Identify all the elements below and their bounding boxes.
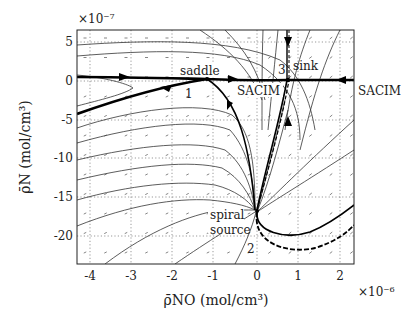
y-tick: -10: [54, 151, 73, 165]
y-tick: -20: [54, 229, 73, 243]
trajectory-arrows: [119, 37, 346, 126]
annotations: saddle 1 SACIM 3 sink SACIM spiral sourc…: [178, 59, 401, 256]
annotation-spiral: spiral: [210, 208, 245, 222]
arrow-right-icon: [228, 75, 238, 83]
arrow-right-icon: [119, 73, 130, 81]
phase-portrait-chart: saddle 1 SACIM 3 sink SACIM spiral sourc…: [0, 0, 416, 323]
spiral-source-point: [255, 209, 259, 213]
x-tick: 2: [336, 269, 344, 283]
x-tick: -3: [125, 269, 137, 283]
x-scale-label: ×10⁻⁶: [358, 285, 395, 299]
annotation-1: 1: [185, 87, 193, 101]
annotation-sacim-inner: SACIM: [237, 84, 280, 98]
arrow-left-icon: [336, 76, 346, 84]
y-tick: -15: [54, 190, 73, 204]
annotation-sacim-right: SACIM: [358, 84, 401, 98]
x-tick: -4: [84, 269, 96, 283]
annotation-2: 2: [247, 242, 255, 256]
x-tick: -1: [207, 269, 219, 283]
annotation-3: 3: [278, 63, 286, 77]
y-tick: -5: [61, 113, 73, 127]
y-axis-label: ρ̄N (mol/cm³): [17, 100, 33, 193]
y-tick: 5: [65, 35, 73, 49]
annotation-sink: sink: [293, 59, 319, 73]
y-scale-label: ×10⁻⁷: [78, 12, 115, 26]
y-axis-ticks: 5 0 -5 -10 -15 -20: [54, 35, 73, 243]
x-tick: -2: [166, 269, 178, 283]
y-tick: 0: [65, 74, 73, 88]
x-tick: 1: [294, 269, 302, 283]
sink-point: [286, 78, 290, 82]
x-axis-label: ρ̄NO (mol/cm³): [164, 292, 269, 308]
annotation-source: source: [210, 223, 251, 237]
x-axis-ticks: -4 -3 -2 -1 0 1 2: [84, 269, 344, 283]
x-tick: 0: [253, 269, 261, 283]
annotation-saddle: saddle: [180, 64, 220, 78]
